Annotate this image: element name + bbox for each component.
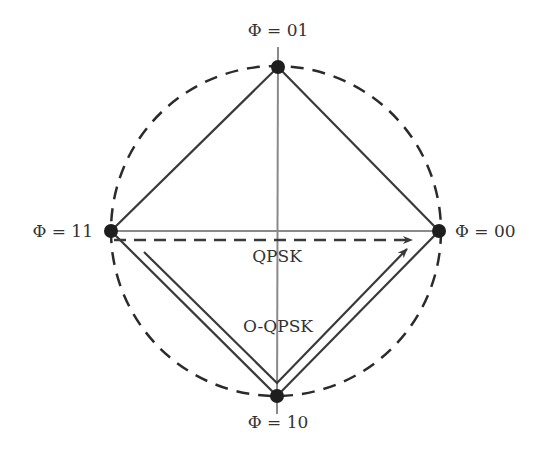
label-oqpsk: O-QPSK <box>243 316 313 336</box>
label-qpsk: QPSK <box>252 246 302 266</box>
point-00 <box>432 224 446 238</box>
label-phi-11: Φ = 11 <box>32 221 93 241</box>
label-phi-00: Φ = 00 <box>455 221 516 241</box>
constellation-diagram: Φ = 01 Φ = 00 Φ = 10 Φ = 11 QPSK O-QPSK <box>0 0 541 455</box>
label-phi-10: Φ = 10 <box>248 412 309 432</box>
point-11 <box>104 224 118 238</box>
point-01 <box>271 60 285 74</box>
point-10 <box>270 389 284 403</box>
label-phi-01: Φ = 01 <box>248 20 309 40</box>
